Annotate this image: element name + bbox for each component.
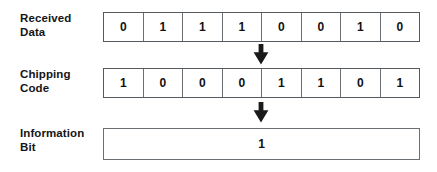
information-bit-box: 1 bbox=[103, 128, 420, 160]
row-label-information-bit: Information Bit bbox=[20, 126, 102, 154]
bit-cell: 1 bbox=[104, 69, 144, 97]
row-label-chipping-code: Chipping Code bbox=[20, 67, 102, 95]
bit-cell: 1 bbox=[302, 69, 342, 97]
row-label-received-data: Received Data bbox=[20, 11, 102, 39]
bit-cell: 1 bbox=[381, 69, 420, 97]
bit-cell: 0 bbox=[341, 69, 381, 97]
bit-row-received-data: 0 1 1 1 0 0 1 0 bbox=[103, 12, 420, 42]
dsss-despreading-diagram: Received Data 0 1 1 1 0 0 1 0 Chipping C… bbox=[0, 0, 437, 172]
information-bit-value: 1 bbox=[258, 137, 265, 151]
bit-row-chipping-code: 1 0 0 0 1 1 0 1 bbox=[103, 68, 420, 98]
bit-cell: 0 bbox=[381, 13, 420, 41]
down-arrow-icon bbox=[250, 44, 272, 66]
bit-cell: 0 bbox=[262, 13, 302, 41]
bit-cell: 1 bbox=[341, 13, 381, 41]
bit-cell: 1 bbox=[223, 13, 263, 41]
bit-cell: 0 bbox=[183, 69, 223, 97]
bit-cell: 0 bbox=[302, 13, 342, 41]
bit-cell: 1 bbox=[144, 13, 184, 41]
bit-cell: 0 bbox=[104, 13, 144, 41]
bit-cell: 1 bbox=[183, 13, 223, 41]
bit-cell: 1 bbox=[262, 69, 302, 97]
bit-cell: 0 bbox=[223, 69, 263, 97]
bit-cell: 0 bbox=[144, 69, 184, 97]
down-arrow-icon bbox=[250, 102, 272, 124]
